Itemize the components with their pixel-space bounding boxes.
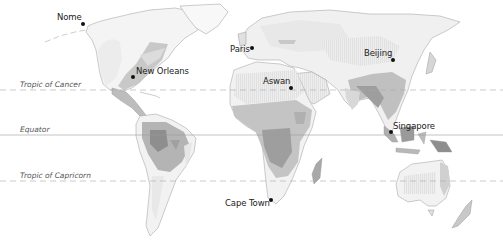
city-marker-aswan — [289, 86, 293, 90]
city-marker-nome — [81, 22, 85, 26]
south-america — [136, 114, 196, 236]
tropic-of-cancer-label: Tropic of Cancer — [20, 80, 81, 89]
city-marker-new-orleans — [131, 75, 135, 79]
australia — [396, 160, 472, 228]
tropic-of-capricorn-label: Tropic of Capricorn — [20, 171, 91, 180]
city-label-cape-town: Cape Town — [225, 198, 270, 208]
city-label-singapore: Singapore — [393, 121, 435, 131]
city-label-nome: Nome — [57, 12, 82, 22]
city-label-beijing: Beijing — [364, 48, 392, 58]
city-marker-paris — [250, 46, 254, 50]
central-america — [112, 88, 160, 118]
city-label-new-orleans: New Orleans — [136, 66, 189, 76]
city-marker-beijing — [391, 58, 395, 62]
city-label-paris: Paris — [230, 44, 250, 54]
city-label-aswan: Aswan — [263, 76, 290, 86]
equator-label: Equator — [20, 125, 49, 134]
